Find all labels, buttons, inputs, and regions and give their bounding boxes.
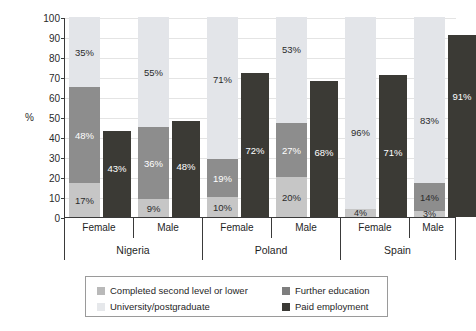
y-tick-label-10: 10: [34, 193, 60, 204]
segment-further-education: 19%: [207, 159, 238, 197]
bar-group-spain-male: 3% 14% 83% 91%: [414, 18, 476, 217]
stacked-bar-nigeria-male[interactable]: 9% 36% 55%: [138, 17, 169, 217]
y-axis-title: %: [8, 112, 34, 123]
segment-university: 71%: [207, 17, 238, 159]
segment-second-level: 9%: [138, 199, 169, 217]
bar-paid-employment-nigeria-female[interactable]: 43%: [103, 131, 131, 217]
bar-paid-employment-poland-male[interactable]: 68%: [310, 81, 338, 217]
axis-label-nigeria-female: Female: [66, 222, 132, 233]
segment-university: 83%: [414, 17, 445, 183]
segment-second-level: 10%: [207, 197, 238, 217]
legend-item-paid-employment[interactable]: Paid employment: [282, 301, 368, 312]
y-tick-label-0: 0: [34, 213, 60, 224]
bar-paid-employment-spain-female[interactable]: 71%: [379, 75, 407, 217]
category-separator-poland-inner: [271, 218, 272, 238]
stacked-bar-poland-female[interactable]: 10% 19% 71%: [207, 17, 238, 217]
bar-group-nigeria-female: 17% 48% 35% 43%: [69, 18, 131, 217]
segment-university: 55%: [138, 17, 169, 127]
axis-label-country-nigeria: Nigeria: [64, 244, 202, 256]
y-tick-label-80: 80: [34, 53, 60, 64]
plot-area: 17% 48% 35% 43% 9% 36% 55% 48% 10% 19%: [64, 18, 456, 218]
legend-swatch-paid-employment-icon: [282, 303, 290, 311]
legend-swatch-university-icon: [97, 303, 105, 311]
bar-group-nigeria-male: 9% 36% 55% 48%: [138, 18, 200, 217]
segment-further-education: 48%: [69, 87, 100, 183]
legend-label-second-level: Completed second level or lower: [110, 285, 248, 296]
y-tick-label-70: 70: [34, 73, 60, 84]
legend-item-second-level[interactable]: Completed second level or lower: [97, 285, 248, 296]
segment-second-level: 3%: [414, 211, 445, 217]
axis-label-country-poland: Poland: [202, 244, 340, 256]
bar-paid-employment-spain-male[interactable]: 91%: [448, 35, 476, 217]
stacked-bar-spain-male[interactable]: 3% 14% 83%: [414, 17, 445, 217]
category-separator-nigeria-inner: [133, 218, 134, 238]
axis-label-spain-male: Male: [411, 222, 455, 233]
y-tick-label-50: 50: [34, 113, 60, 124]
legend-swatch-second-level-icon: [97, 287, 105, 295]
bar-group-spain-female: 4% 96% 71%: [345, 18, 407, 217]
bar-paid-employment-poland-female[interactable]: 72%: [241, 73, 269, 217]
legend-swatch-further-education-icon: [282, 287, 290, 295]
legend-label-further-education: Further education: [295, 285, 369, 296]
legend-label-paid-employment: Paid employment: [295, 301, 368, 312]
segment-university: 96%: [345, 17, 376, 209]
axis-label-nigeria-male: Male: [135, 222, 201, 233]
segment-further-education: 36%: [138, 127, 169, 199]
stacked-bar-poland-male[interactable]: 20% 27% 53%: [276, 17, 307, 217]
legend-item-university[interactable]: University/postgraduate: [97, 301, 210, 312]
segment-second-level: 17%: [69, 183, 100, 217]
segment-university: 35%: [69, 17, 100, 87]
y-tick-label-20: 20: [34, 173, 60, 184]
stacked-bar-spain-female[interactable]: 4% 96%: [345, 17, 376, 217]
y-tick-label-100: 100: [34, 13, 60, 24]
y-tick-label-60: 60: [34, 93, 60, 104]
y-tick-label-90: 90: [34, 33, 60, 44]
legend-label-university: University/postgraduate: [110, 301, 210, 312]
segment-university: 53%: [276, 17, 307, 123]
segment-second-level: 20%: [276, 177, 307, 217]
stacked-bar-nigeria-female[interactable]: 17% 48% 35%: [69, 17, 100, 217]
axis-label-poland-male: Male: [273, 222, 339, 233]
category-separator-right: [455, 218, 456, 260]
y-tick-label-30: 30: [34, 153, 60, 164]
legend-item-further-education[interactable]: Further education: [282, 285, 369, 296]
axis-label-country-spain: Spain: [340, 244, 455, 256]
axis-label-spain-female: Female: [342, 222, 408, 233]
bar-group-poland-female: 10% 19% 71% 72%: [207, 18, 269, 217]
bar-group-poland-male: 20% 27% 53% 68%: [276, 18, 338, 217]
axis-label-poland-female: Female: [204, 222, 270, 233]
segment-further-education: 14%: [414, 183, 445, 211]
chart-legend: Completed second level or lower Universi…: [85, 276, 388, 317]
y-tick-label-40: 40: [34, 133, 60, 144]
category-separator-spain-inner: [409, 218, 410, 238]
segment-second-level: 4%: [345, 209, 376, 217]
bar-paid-employment-nigeria-male[interactable]: 48%: [172, 121, 200, 217]
segment-further-education: 27%: [276, 123, 307, 177]
